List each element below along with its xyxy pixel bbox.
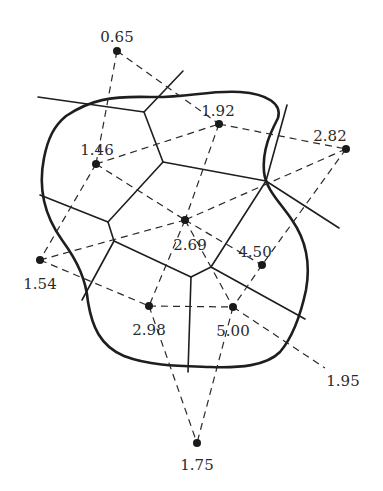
sample-point-p298 xyxy=(145,302,153,310)
point-label-p192: 1.92 xyxy=(201,102,234,120)
sample-point-p146 xyxy=(92,160,100,168)
sample-point-p450 xyxy=(258,261,266,269)
voronoi-edge xyxy=(211,267,305,319)
point-label-p065: 0.65 xyxy=(100,28,133,46)
voronoi-edge xyxy=(188,277,191,372)
point-label-p175: 1.75 xyxy=(180,456,213,474)
voronoi-edge xyxy=(191,267,211,277)
triangulation-edge xyxy=(96,124,219,164)
point-label-p146: 1.46 xyxy=(80,141,113,159)
sample-point-p500 xyxy=(229,303,237,311)
triangulation-edge xyxy=(185,149,346,220)
point-label-p195: 1.95 xyxy=(326,372,359,390)
point-label-p500: 5.00 xyxy=(216,322,249,340)
voronoi-edge xyxy=(108,222,114,241)
voronoi-edge xyxy=(108,162,163,222)
point-label-p298: 2.98 xyxy=(132,321,165,339)
voronoi-diagram: 0.651.922.821.462.691.544.502.985.001.95… xyxy=(0,0,383,491)
voronoi-edge xyxy=(266,105,287,181)
triangulation-edge xyxy=(185,220,233,307)
voronoi-edge xyxy=(266,181,339,228)
sample-point-p269 xyxy=(181,216,189,224)
voronoi-edge xyxy=(38,97,144,112)
triangulation-edge xyxy=(233,265,262,307)
triangulation-edge xyxy=(96,164,185,220)
sample-point-p065 xyxy=(113,47,121,55)
boundary-outline xyxy=(42,92,308,368)
triangulation-edge xyxy=(149,220,185,306)
point-label-p269: 2.69 xyxy=(173,236,206,254)
sample-point-p282 xyxy=(342,145,350,153)
point-label-p154: 1.54 xyxy=(23,275,56,293)
point-label-p450: 4.50 xyxy=(238,243,271,261)
sample-point-p175 xyxy=(193,439,201,447)
point-label-p282: 2.82 xyxy=(313,127,346,145)
sample-point-p154 xyxy=(36,256,44,264)
study-area-boundary xyxy=(42,92,308,368)
voronoi-edge xyxy=(82,241,114,300)
voronoi-edge xyxy=(144,112,163,162)
triangulation-edge xyxy=(149,306,233,307)
voronoi-edge xyxy=(144,71,183,112)
voronoi-edge xyxy=(163,162,266,181)
sample-point-p192 xyxy=(215,120,223,128)
